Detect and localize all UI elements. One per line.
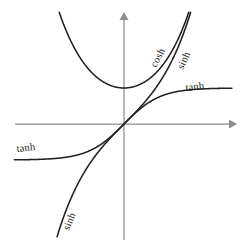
plot-canvas: cosh sinh tanh tanh sinh <box>0 0 244 251</box>
sinh-label-top: sinh <box>175 49 193 71</box>
y-axis-arrowhead-icon <box>120 12 129 20</box>
cosh-label: cosh <box>148 46 167 69</box>
tanh-label-right: tanh <box>185 80 205 93</box>
hyperbolic-functions-figure: cosh sinh tanh tanh sinh <box>0 0 244 251</box>
axes-group <box>15 12 237 240</box>
tanh-label-left: tanh <box>16 141 36 154</box>
sinh-label-bottom: sinh <box>61 210 78 231</box>
x-axis-arrowhead-icon <box>229 120 237 129</box>
